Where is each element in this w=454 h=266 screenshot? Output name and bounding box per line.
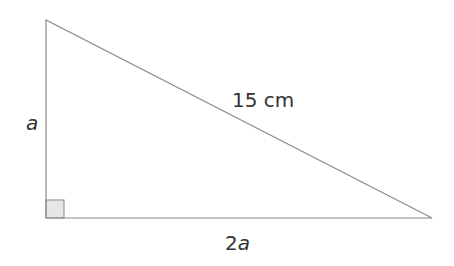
triangle-diagram: a 15 cm 2a xyxy=(0,0,454,266)
hypotenuse-label: 15 cm xyxy=(232,88,294,112)
triangle xyxy=(46,20,432,218)
side-a-label: a xyxy=(26,111,38,135)
side-2a-label: 2a xyxy=(225,231,250,255)
diagram-canvas: a 15 cm 2a xyxy=(0,0,454,266)
right-angle-marker xyxy=(46,200,64,218)
